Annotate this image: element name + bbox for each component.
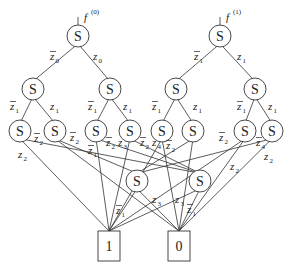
edge-label: z (17, 148, 23, 160)
edge (176, 97, 193, 124)
edge-label: z (236, 50, 242, 62)
edge-label-subscript: 2 (112, 143, 116, 151)
edge-label-subscript: 2 (225, 138, 229, 146)
edge-label: z (267, 100, 273, 112)
node-label: S (74, 29, 82, 44)
edge-label-subscript: 2 (76, 138, 80, 146)
edge-label-subscript: 4 (158, 143, 162, 151)
edge-label: z (122, 100, 128, 112)
edge-label-subscript: 1 (56, 107, 60, 115)
edge-label-subscript: 1 (199, 107, 203, 115)
node-label: S (216, 29, 224, 44)
edge-label: z (174, 193, 180, 205)
edge-label-subscript: 1 (193, 210, 197, 218)
edge (179, 139, 245, 231)
node-label: S (29, 82, 37, 97)
edge-label: z (151, 136, 157, 148)
edge-label: z (229, 160, 235, 172)
edge (162, 97, 176, 124)
edge (96, 97, 110, 124)
edge-label: z (92, 50, 98, 62)
edge-label-subscript: 2 (146, 143, 150, 151)
edge-label-subscript: 0 (56, 57, 60, 65)
node-label: S (92, 124, 100, 139)
edge-label-subscript: 1 (243, 107, 247, 115)
edge-label: z (49, 100, 55, 112)
edge-label-subscript: 2 (172, 146, 176, 154)
root-function-label: f (226, 11, 231, 23)
edge-label-subscript: 1 (274, 107, 278, 115)
edge-label-subscript: 1 (200, 57, 204, 65)
node-label: S (158, 124, 166, 139)
node-label: S (51, 124, 59, 139)
edge-label-subscript: 0 (99, 57, 103, 65)
bdd-diagram: f(0)f(1) SSSSSSSSSSSSSSSS 10 z0z0z1z1z1z… (0, 0, 290, 273)
root-superscript: (0) (91, 8, 100, 16)
edge-label-subscript: 2 (236, 167, 240, 175)
node-label: S (268, 124, 276, 139)
edge-label-subscript: 1 (243, 57, 247, 65)
edge-label-subscript: 3 (158, 200, 162, 208)
edge-label-subscript: 1 (158, 107, 162, 115)
edge-label-subscript: 3 (181, 200, 185, 208)
node-label: S (106, 82, 114, 97)
root-labels-layer: f(0)f(1) (78, 8, 242, 25)
node-label: S (189, 124, 197, 139)
edge-label: z (151, 193, 157, 205)
edge-label-subscript: 2 (40, 139, 44, 147)
terminal-label: 0 (176, 239, 183, 254)
edge-label-subscript: 2 (270, 157, 274, 165)
node-label: S (133, 174, 141, 189)
node-label: S (251, 82, 259, 97)
edge-label-subscript: 1 (94, 107, 98, 115)
edge-label-subscript: 1 (94, 151, 98, 159)
edge (20, 97, 33, 124)
node-label: S (196, 174, 204, 189)
node-label: S (16, 124, 24, 139)
node-label: S (126, 124, 134, 139)
edge-label-subscript: 1 (129, 107, 133, 115)
edge-label-subscript: 1 (122, 211, 126, 219)
edge-label: z (117, 136, 123, 148)
root-superscript: (1) (233, 8, 242, 16)
edge-label-subscript: 3 (124, 143, 128, 151)
terminal-label: 1 (106, 239, 113, 254)
edge-label: z (263, 150, 269, 162)
edge-label-subscript: 1 (16, 107, 20, 115)
edge-label-subscript: 2 (24, 155, 28, 163)
node-label: S (241, 124, 249, 139)
node-label: S (172, 82, 180, 97)
root-function-label: f (84, 11, 89, 23)
diagram-svg: f(0)f(1) SSSSSSSSSSSSSSSS 10 z0z0z1z1z1z… (0, 0, 290, 273)
edge (245, 97, 255, 124)
edge-label: z (192, 100, 198, 112)
edge (96, 139, 109, 231)
terminals-layer: 10 (98, 231, 190, 261)
